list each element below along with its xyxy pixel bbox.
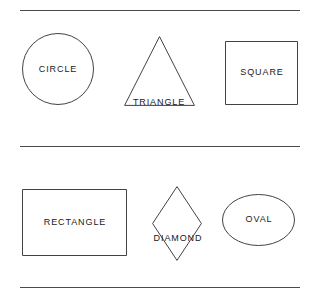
divider-middle (20, 146, 300, 147)
shape-diamond (152, 186, 202, 261)
shape-triangle (124, 36, 195, 106)
shape-label-triangle: TRIANGLE (133, 97, 185, 107)
shape-label-circle: CIRCLE (39, 64, 77, 74)
divider-bottom (20, 287, 300, 288)
shape-label-diamond: DIAMOND (154, 233, 203, 243)
shapes-figure: CIRCLE TRIANGLE SQUARE RECTANGLE DIAMOND… (0, 0, 317, 293)
shape-label-oval: OVAL (246, 214, 273, 224)
divider-top (20, 10, 300, 11)
shape-label-rectangle: RECTANGLE (44, 217, 106, 227)
shape-label-square: SQUARE (240, 67, 283, 77)
diamond-outline-icon (152, 186, 202, 261)
triangle-outline-icon (124, 36, 195, 106)
